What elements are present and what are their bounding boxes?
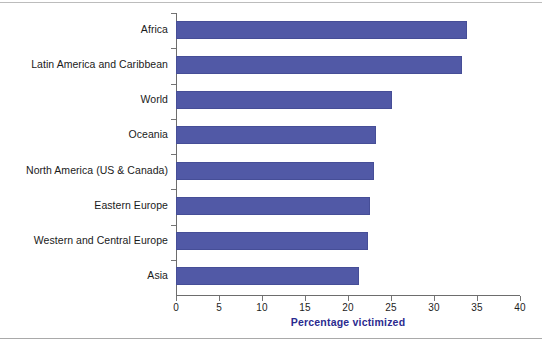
category-label-row: Asia — [0, 269, 176, 283]
value-tick — [348, 296, 349, 301]
category-label: Africa — [10, 23, 176, 35]
value-tick-label: 15 — [290, 302, 320, 313]
value-tick — [219, 296, 220, 301]
value-tick-label: 30 — [419, 302, 449, 313]
value-tick-label: 25 — [376, 302, 406, 313]
category-tick — [171, 84, 176, 85]
value-tick-label: 40 — [505, 302, 535, 313]
category-tick — [171, 189, 176, 190]
bar-chart: AfricaLatin America and CaribbeanWorldOc… — [0, 0, 542, 338]
category-label-row: Western and Central Europe — [0, 234, 176, 248]
category-label-row: Latin America and Caribbean — [0, 58, 176, 72]
bar — [176, 56, 462, 74]
category-label-row: Africa — [0, 23, 176, 37]
category-tick — [171, 48, 176, 49]
value-tick-label: 0 — [161, 302, 191, 313]
value-tick — [434, 296, 435, 301]
x-axis-title: Percentage victimized — [176, 316, 520, 328]
value-tick — [305, 296, 306, 301]
value-tick — [391, 296, 392, 301]
page-canvas: AfricaLatin America and CaribbeanWorldOc… — [0, 0, 542, 347]
bar — [176, 232, 368, 250]
category-label-row: Eastern Europe — [0, 199, 176, 213]
category-label-row: Oceania — [0, 128, 176, 142]
value-tick-label: 20 — [333, 302, 363, 313]
category-label-row: World — [0, 93, 176, 107]
category-label: North America (US & Canada) — [10, 164, 176, 176]
category-tick — [171, 119, 176, 120]
category-tick — [171, 13, 176, 14]
category-label: Eastern Europe — [10, 199, 176, 211]
page-bottom-rule — [0, 338, 542, 339]
value-tick — [262, 296, 263, 301]
bar — [176, 162, 374, 180]
category-label: World — [10, 93, 176, 105]
category-label: Western and Central Europe — [10, 234, 176, 246]
value-tick-label: 5 — [204, 302, 234, 313]
category-tick — [171, 154, 176, 155]
value-tick — [477, 296, 478, 301]
category-label: Latin America and Caribbean — [10, 58, 176, 70]
value-tick — [520, 296, 521, 301]
bar — [176, 267, 359, 285]
bar — [176, 21, 467, 39]
category-tick — [171, 225, 176, 226]
category-tick — [171, 260, 176, 261]
category-label-row: North America (US & Canada) — [0, 164, 176, 178]
bar — [176, 126, 376, 144]
value-tick-label: 10 — [247, 302, 277, 313]
bar — [176, 91, 392, 109]
bar — [176, 197, 370, 215]
category-label: Asia — [10, 269, 176, 281]
value-tick — [176, 296, 177, 301]
value-tick-label: 35 — [462, 302, 492, 313]
category-label: Oceania — [10, 128, 176, 140]
